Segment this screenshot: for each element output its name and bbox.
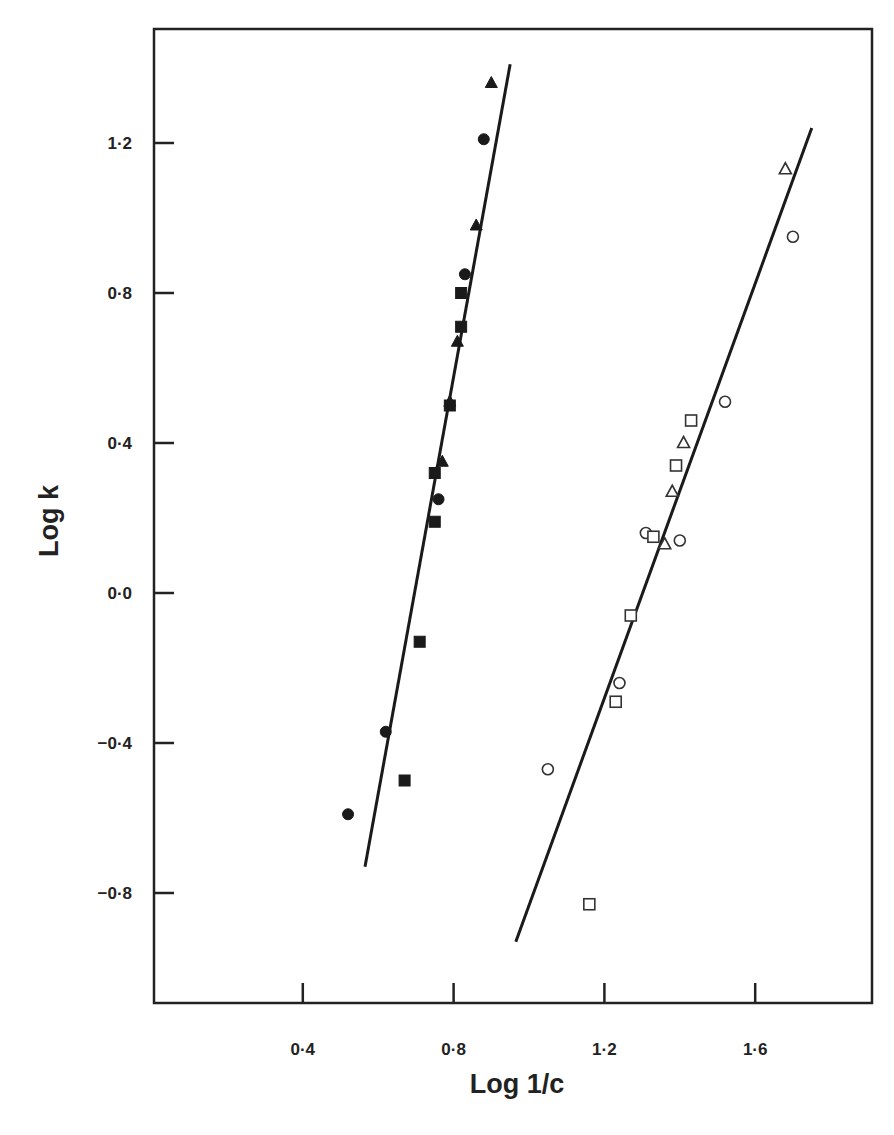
- filled-square-marker: [414, 636, 425, 647]
- filled-square-marker: [456, 321, 467, 332]
- filled-circle-marker: [478, 134, 489, 145]
- open-triangle-marker: [678, 437, 690, 448]
- open-circle-marker: [542, 764, 553, 775]
- y-axis-label: Log k: [34, 484, 64, 557]
- x-axis-ticks: 0·40·81·21·6: [291, 983, 768, 1059]
- y-tick-label: −0·4: [98, 734, 133, 753]
- y-tick-label: −0·8: [98, 884, 133, 903]
- open-square-marker: [686, 415, 697, 426]
- filled-circle-marker: [343, 809, 354, 820]
- open-square-marker: [671, 460, 682, 471]
- y-tick-label: 0·4: [107, 434, 132, 453]
- x-tick-label: 1·2: [592, 1040, 617, 1059]
- open-square-marker: [625, 610, 636, 621]
- regression-lines: [365, 64, 812, 942]
- open-square-marker: [648, 531, 659, 542]
- open-triangle-marker: [666, 485, 678, 496]
- x-tick-label: 1·6: [743, 1040, 768, 1059]
- filled-square-marker: [456, 288, 467, 299]
- y-tick-label: 0·0: [107, 584, 132, 603]
- filled-circle-marker: [433, 494, 444, 505]
- open-triangle-marker: [779, 163, 791, 174]
- scatter-chart: 1·20·80·40·0−0·4−0·8 0·40·81·21·6 Log k …: [0, 0, 894, 1135]
- filled-circle-marker: [380, 726, 391, 737]
- open-square-marker: [610, 696, 621, 707]
- data-points: [343, 77, 799, 910]
- y-axis-ticks: 1·20·80·40·0−0·4−0·8: [98, 134, 175, 903]
- filled-square-marker: [399, 775, 410, 786]
- plot-frame: [154, 29, 872, 1003]
- open-circle-marker: [787, 231, 798, 242]
- filled-square-marker: [429, 468, 440, 479]
- y-tick-label: 0·8: [107, 284, 132, 303]
- x-tick-label: 0·8: [441, 1040, 466, 1059]
- x-axis-label: Log 1/c: [470, 1069, 565, 1099]
- open-circle-marker: [674, 535, 685, 546]
- filled-square-marker: [429, 516, 440, 527]
- filled-circle-marker: [459, 269, 470, 280]
- filled-triangle-marker: [485, 77, 497, 88]
- y-tick-label: 1·2: [107, 134, 132, 153]
- open-circle-marker: [614, 678, 625, 689]
- x-tick-label: 0·4: [291, 1040, 316, 1059]
- open-circle-marker: [720, 396, 731, 407]
- fit-open-line: [516, 128, 812, 942]
- open-square-marker: [584, 899, 595, 910]
